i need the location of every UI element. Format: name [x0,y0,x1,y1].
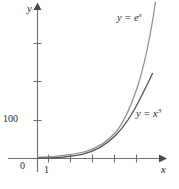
cubic-label-exponent: 3 [158,107,162,115]
y-axis-arrow-icon [34,3,42,11]
x-axis-arrow-icon [159,155,167,163]
exponential-curve-label: y = ex [117,13,142,24]
origin-tick-label: 0 [20,161,25,171]
figure-container: y x 0 1 100 y = ex y = x3 [0,0,179,189]
x-tick-label-1: 1 [44,165,49,175]
exponential-curve [39,2,156,157]
y-axis-label: y [27,3,32,14]
exponential-label-exponent: x [139,11,142,19]
cubic-curve-label: y = x3 [136,109,161,120]
plot-svg [0,0,179,189]
y-tick-label-100: 100 [3,114,18,124]
cubic-label-text: y = x [136,108,158,119]
x-axis-label: x [161,164,166,175]
exponential-label-text: y = e [117,12,139,23]
